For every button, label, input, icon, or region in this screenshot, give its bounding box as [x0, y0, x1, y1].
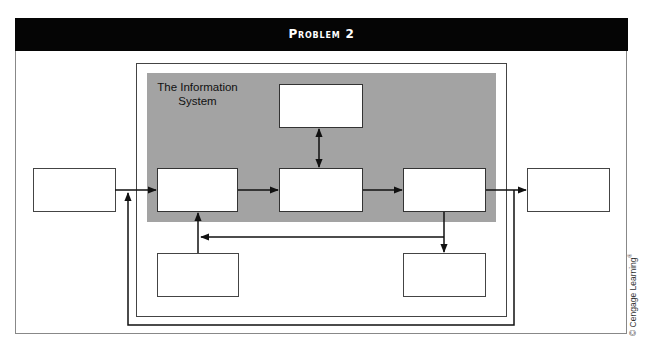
control-input-box [158, 254, 239, 297]
output-box [404, 169, 486, 212]
information-system-diagram [0, 0, 645, 355]
processing-box [280, 169, 363, 212]
system-label-line2: System [150, 94, 245, 108]
system-label-line1: The Information [150, 80, 245, 94]
control-output-box [404, 254, 486, 297]
input-box [158, 169, 238, 212]
copyright-notice: © Cengage Learning® [627, 254, 638, 336]
environment-output-box [528, 169, 610, 212]
information-system-label: The Information System [150, 80, 245, 108]
environment-input-box [34, 169, 116, 212]
copyright-text: © Cengage Learning [628, 257, 638, 336]
registered-mark: ® [627, 254, 633, 258]
storage-box [280, 85, 363, 128]
